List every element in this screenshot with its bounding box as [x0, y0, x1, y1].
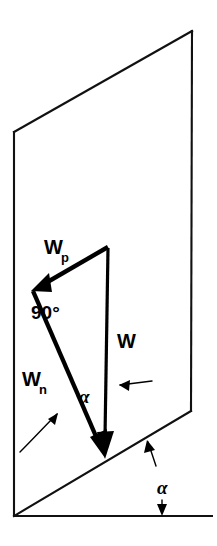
incline-angle-inner-leader	[119, 380, 152, 391]
weight-total-vector	[97, 248, 114, 459]
inclined-plane-figure: W p 90° W n W α α	[0, 0, 217, 546]
incline-angle-inner-label: α	[79, 386, 90, 407]
figure-canvas: W p 90° W n W α α	[0, 0, 217, 546]
incline-angle-inner-leader-head	[119, 380, 130, 391]
weight-normal-label: W n	[22, 368, 47, 397]
weight-total-label: W	[117, 330, 136, 352]
plane-incline-edge	[14, 411, 191, 516]
weight-parallel-label: W p	[44, 236, 69, 265]
weight-normal-leader	[20, 413, 58, 452]
weight-parallel-vector	[31, 247, 108, 292]
weight-normal-label-sub: n	[39, 382, 47, 397]
weight-normal-leader-head	[48, 413, 58, 425]
incline-angle-ground-leader-down-head	[157, 504, 167, 516]
weight-total-shaft	[105, 248, 108, 437]
right-angle-label: 90°	[31, 302, 60, 323]
incline-angle-ground-leader-up	[144, 440, 156, 466]
plane-top-edge	[14, 31, 192, 132]
weight-parallel-label-sub: p	[61, 250, 69, 265]
plane-right-edge	[191, 31, 192, 411]
incline-angle-ground-label: α	[157, 477, 168, 498]
weight-parallel-arrowhead	[31, 273, 52, 292]
incline-angle-ground-leader-down	[157, 500, 167, 516]
incline-angle-ground-leader-up-head	[144, 440, 155, 453]
